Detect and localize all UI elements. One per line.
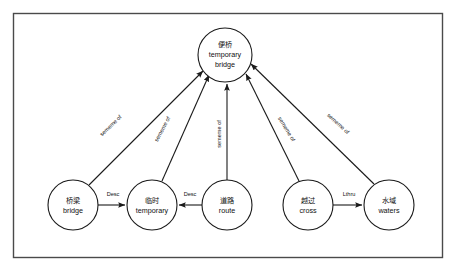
node-temporary[interactable]: 临时 temporary bbox=[127, 180, 177, 230]
edge-label-sememe-of-route: sememe of bbox=[216, 120, 222, 148]
node-label-en-line1: cross bbox=[299, 206, 317, 215]
node-label-en-line2: bridge bbox=[215, 60, 235, 69]
edge-label-sememe-of-temporary: sememe of bbox=[153, 115, 171, 143]
node-label-cn: 道路 bbox=[220, 196, 234, 205]
node-label-en-line1: bridge bbox=[63, 206, 83, 215]
edge-cross-to-temporary-bridge bbox=[246, 74, 299, 181]
edge-label-sememe-of-bridge: sememe of bbox=[99, 113, 123, 137]
edge-waters-to-temporary-bridge bbox=[251, 64, 374, 184]
node-label-cn: 临时 bbox=[145, 196, 159, 205]
edge-label-desc-bridge-temporary: Desc bbox=[107, 191, 120, 197]
node-circle[interactable] bbox=[48, 180, 98, 230]
node-circle[interactable] bbox=[127, 180, 177, 230]
edge-label-sememe-of-cross: sememe of bbox=[277, 116, 297, 143]
edge-label-desc-route-temporary: Desc bbox=[184, 191, 197, 197]
node-temporary-bridge[interactable]: 便桥 temporary bridge bbox=[198, 28, 252, 82]
node-label-cn: 便桥 bbox=[218, 40, 232, 49]
diagram-canvas: 便桥 temporary bridge 桥梁 bridge 临时 tempora… bbox=[0, 0, 456, 275]
node-label-cn: 越过 bbox=[301, 196, 315, 205]
node-label-en-line1: waters bbox=[377, 206, 400, 215]
node-label-cn: 桥梁 bbox=[66, 196, 80, 205]
node-label-cn: 水域 bbox=[382, 196, 396, 205]
node-bridge[interactable]: 桥梁 bridge bbox=[48, 180, 98, 230]
edge-label-lthru-cross-waters: Lthru bbox=[343, 191, 356, 197]
node-label-en-line1: temporary bbox=[209, 50, 242, 59]
semantic-network-graph: 便桥 temporary bridge 桥梁 bridge 临时 tempora… bbox=[0, 0, 456, 275]
node-circle[interactable] bbox=[364, 180, 414, 230]
node-circle[interactable] bbox=[283, 180, 333, 230]
node-label-en-line1: temporary bbox=[136, 206, 169, 215]
node-waters[interactable]: 水域 waters bbox=[364, 180, 414, 230]
edge-label-sememe-of-waters: sememe of bbox=[326, 112, 351, 135]
node-label-en-line1: route bbox=[219, 206, 235, 215]
node-route[interactable]: 道路 route bbox=[202, 180, 252, 230]
edge-temporary-to-temporary-bridge bbox=[162, 75, 209, 181]
node-circle[interactable] bbox=[202, 180, 252, 230]
node-cross[interactable]: 越过 cross bbox=[283, 180, 333, 230]
